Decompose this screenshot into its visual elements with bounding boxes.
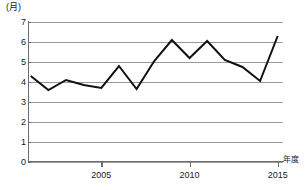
line-chart: (月) 76543210 200520102015 年度: [0, 0, 307, 190]
series-line-layer: [0, 0, 307, 190]
series-line-path: [31, 36, 278, 90]
